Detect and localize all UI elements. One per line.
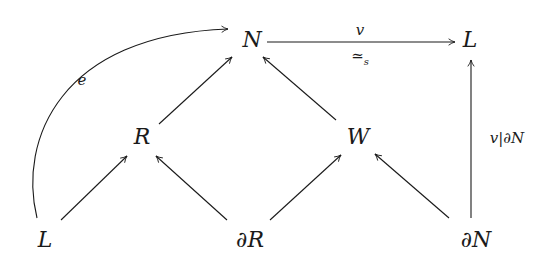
node-l-top: L: [463, 29, 478, 51]
edge-label-v-text: v: [356, 21, 364, 39]
node-l-bottom: L: [38, 229, 53, 251]
node-boundary-r: ∂R: [236, 229, 264, 251]
node-w: W: [347, 126, 370, 148]
node-r-label: R: [134, 124, 151, 149]
node-l-bottom-label: L: [38, 227, 53, 252]
edge-label-simeq-s: ≃s: [351, 49, 369, 67]
arrow-dr-to-w: [270, 155, 341, 220]
arrow-w-to-n: [263, 57, 336, 120]
edge-label-e: e: [78, 73, 87, 88]
node-n-label: N: [242, 27, 261, 52]
arrow-l-to-r: [61, 156, 127, 220]
partial-symbol: ∂: [461, 227, 472, 252]
restriction-prefix: v|: [490, 129, 504, 147]
restriction-suffix: N: [511, 129, 524, 147]
arrow-e-curved: [33, 29, 228, 218]
simeq-symbol: ≃: [351, 47, 364, 65]
node-w-label: W: [347, 124, 370, 149]
node-n: N: [242, 29, 261, 51]
node-boundary-r-label: R: [247, 227, 264, 252]
node-boundary-n: ∂N: [461, 229, 492, 251]
simeq-subscript: s: [364, 56, 369, 67]
edge-label-v: v: [356, 23, 364, 38]
edge-label-v-restricted: v|∂N: [490, 131, 524, 146]
edge-label-e-text: e: [78, 71, 87, 89]
arrow-dn-to-w: [375, 154, 449, 218]
node-boundary-n-label: N: [472, 227, 491, 252]
node-l-top-label: L: [463, 27, 478, 52]
arrow-r-to-n: [159, 57, 232, 124]
node-r: R: [134, 126, 151, 148]
arrow-dr-to-r: [156, 156, 227, 220]
partial-symbol: ∂: [236, 227, 247, 252]
